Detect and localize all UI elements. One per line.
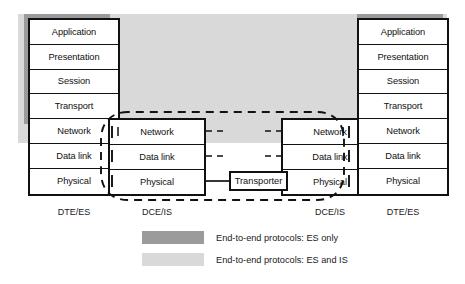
layer-session: Session bbox=[359, 70, 447, 95]
caption-dte-es-right: DTE/ES bbox=[357, 207, 449, 217]
layer-physical: Physical bbox=[30, 169, 118, 194]
layer-data-link: Data link bbox=[110, 145, 204, 170]
layer-presentation: Presentation bbox=[359, 45, 447, 70]
layer-transport: Transport bbox=[359, 94, 447, 119]
caption-dte-es-left: DTE/ES bbox=[28, 207, 120, 217]
layer-physical: Physical bbox=[359, 169, 447, 194]
layer-network: Network bbox=[110, 120, 204, 145]
legend-swatch-es-and-is bbox=[142, 253, 204, 266]
stack-dte-es-right: Application Presentation Session Transpo… bbox=[357, 18, 449, 196]
legend-item-es-only: End-to-end protocols: ES only bbox=[142, 231, 338, 244]
osi-relay-diagram: Application Presentation Session Transpo… bbox=[0, 0, 465, 284]
caption-dce-is-left: DCE/IS bbox=[108, 207, 206, 217]
layer-physical: Physical bbox=[110, 170, 204, 195]
layer-network: Network bbox=[359, 119, 447, 144]
legend-label-es-only: End-to-end protocols: ES only bbox=[216, 233, 338, 243]
legend-label-es-and-is: End-to-end protocols: ES and IS bbox=[216, 255, 348, 265]
layer-application: Application bbox=[30, 20, 118, 45]
layer-data-link: Data link bbox=[359, 144, 447, 169]
layer-presentation: Presentation bbox=[30, 45, 118, 70]
layer-session: Session bbox=[30, 70, 118, 95]
stack-dte-es-left: Application Presentation Session Transpo… bbox=[28, 18, 120, 196]
layer-transport: Transport bbox=[30, 94, 118, 119]
layer-network: Network bbox=[30, 119, 118, 144]
transporter-label: Transporter bbox=[235, 176, 283, 186]
layer-application: Application bbox=[359, 20, 447, 45]
legend-swatch-es-only bbox=[142, 231, 204, 244]
stack-dce-is-left: Network Data link Physical bbox=[108, 118, 206, 196]
legend-item-es-and-is: End-to-end protocols: ES and IS bbox=[142, 253, 348, 266]
transporter-box: Transporter bbox=[229, 171, 288, 191]
layer-data-link: Data link bbox=[30, 144, 118, 169]
